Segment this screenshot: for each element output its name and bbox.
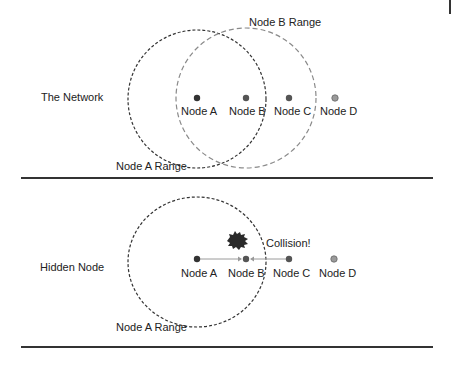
node-b-dot-top <box>243 95 249 101</box>
node-a-label-top: Node A <box>181 105 217 117</box>
divider-middle <box>21 177 433 179</box>
diagram-graphics <box>0 0 453 365</box>
node-d-dot-top <box>332 95 338 101</box>
panel-title-hidden-node: Hidden Node <box>40 261 104 273</box>
collision-label: Collision! <box>266 237 311 249</box>
node-a-range-label-top: Node A Range <box>116 160 187 172</box>
divider-bottom <box>21 346 433 348</box>
panel-title-network: The Network <box>41 91 103 103</box>
node-a-range-label-bottom: Node A Range <box>116 321 187 333</box>
node-d-dot-bottom <box>331 256 337 262</box>
node-c-label-bottom: Node C <box>273 267 310 279</box>
hidden-node-diagram: The Network Node B Range Node A Range No… <box>0 0 453 365</box>
node-b-label-top: Node B <box>229 105 266 117</box>
node-b-dot-bottom <box>243 256 249 262</box>
node-a-dot-bottom <box>194 256 200 262</box>
arrowhead-c-to-b <box>250 257 254 262</box>
node-a-label-bottom: Node A <box>181 267 217 279</box>
node-d-label-bottom: Node D <box>319 267 356 279</box>
node-c-dot-top <box>286 95 292 101</box>
collision-burst-icon <box>227 231 248 250</box>
node-d-label-top: Node D <box>320 105 357 117</box>
node-b-label-bottom: Node B <box>228 267 265 279</box>
node-b-range-label: Node B Range <box>249 16 321 28</box>
node-c-dot-bottom <box>286 256 292 262</box>
arrowhead-a-to-b <box>238 257 242 262</box>
node-c-label-top: Node C <box>274 105 311 117</box>
node-a-dot-top <box>194 95 200 101</box>
